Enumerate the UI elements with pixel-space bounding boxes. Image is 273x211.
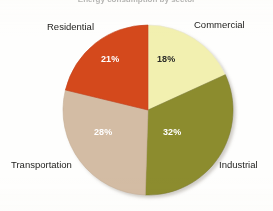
pie-chart-figure: Energy consumption by sector 18% 32% 28%…: [0, 0, 273, 211]
category-label-commercial: Commercial: [194, 19, 245, 30]
category-label-industrial: Industrial: [219, 159, 258, 170]
category-label-transportation: Transportation: [11, 159, 72, 170]
category-label-residential: Residential: [47, 21, 94, 32]
pie-chart-graphic: 18% 32% 28% 21% Residential Commercial I…: [0, 0, 273, 211]
pie-slices-group: [63, 25, 233, 195]
pie-svg: [0, 0, 273, 211]
